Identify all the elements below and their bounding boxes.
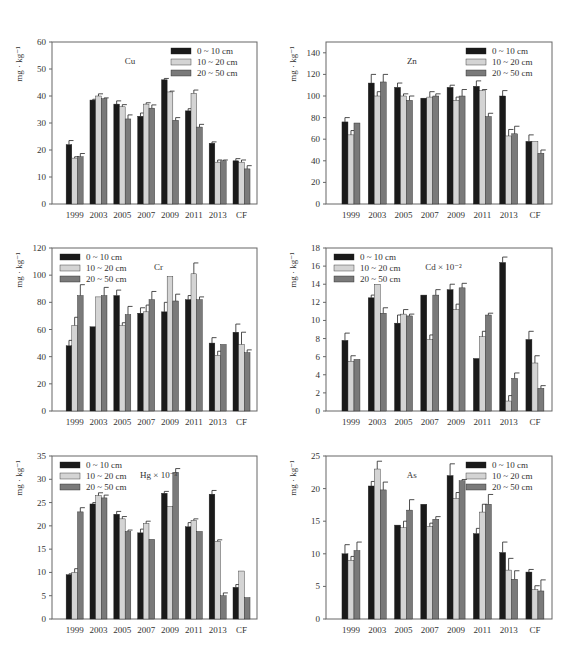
y-tick-label: 0 [316, 614, 321, 624]
legend-label: 20 ~ 50 cm [492, 482, 533, 492]
bar [380, 490, 386, 619]
legend-swatch [466, 473, 486, 479]
chart-title: As [407, 470, 417, 480]
y-tick-label: 5 [316, 581, 321, 591]
bar [538, 591, 544, 619]
bar [479, 512, 485, 619]
bar [433, 519, 439, 619]
x-tick-label: CF [529, 625, 540, 635]
bar [374, 469, 380, 619]
bar [500, 552, 506, 619]
bar [368, 486, 374, 619]
bar [342, 554, 348, 619]
x-tick-label: 2003 [368, 625, 387, 635]
bar [348, 560, 354, 619]
y-tick-label: 25 [311, 451, 321, 461]
x-tick-label: 2007 [421, 625, 440, 635]
x-tick-label: 2009 [447, 625, 466, 635]
y-tick-label: 15 [311, 516, 321, 526]
bar [473, 534, 479, 619]
legend-label: 0 ~ 10 cm [492, 460, 528, 470]
y-tick-label: 20 [311, 484, 321, 494]
bar [354, 551, 360, 619]
legend-swatch [466, 462, 486, 468]
bar [401, 528, 407, 619]
y-tick-label: 10 [311, 549, 321, 559]
bar [453, 498, 459, 619]
y-axis-label: mg · kg⁻¹ [288, 460, 298, 496]
bar [407, 510, 413, 619]
legend-swatch [466, 484, 486, 490]
chart-panel-as: 0510152025mg · kg⁻¹199920032005200720092… [0, 0, 573, 661]
bar [512, 579, 518, 619]
bar [395, 525, 401, 619]
x-tick-label: 1999 [342, 625, 361, 635]
bar [459, 481, 465, 619]
bar [421, 504, 427, 619]
bar [447, 476, 453, 619]
bar [532, 590, 538, 619]
bar [485, 504, 491, 619]
bar [526, 572, 532, 619]
legend-label: 10 ~ 20 cm [492, 471, 533, 481]
x-tick-label: 2005 [395, 625, 414, 635]
bar [506, 570, 512, 619]
bar [427, 526, 433, 619]
x-tick-label: 2013 [500, 625, 519, 635]
x-tick-label: 2011 [474, 625, 492, 635]
